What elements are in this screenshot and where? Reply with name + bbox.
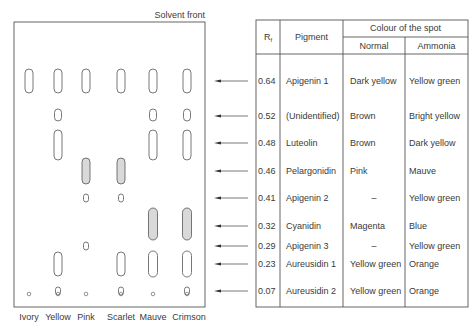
header-ammonia: Ammonia (417, 41, 455, 51)
cell-ammonia: Orange (409, 286, 439, 296)
arrow-row-3 (214, 141, 248, 144)
table-row: 0.23Aureusidin 1Yellow greenOrange (258, 259, 439, 269)
cell-pigment: (Unidentified) (286, 111, 340, 121)
spot-mauve-rf-032 (149, 208, 158, 240)
cell-rf: 0.48 (258, 138, 276, 148)
chromatography-plate (14, 22, 205, 307)
spot-yellow-rf-023 (54, 252, 62, 276)
table-row: 0.07Aureusidin 2Yellow greenOrange (258, 286, 439, 296)
lane-label-scarlet: Scarlet (107, 312, 136, 322)
table-rows: 0.64Apigenin 1Dark yellowYellow green0.5… (258, 76, 461, 296)
header-normal: Normal (359, 41, 388, 51)
spot-crimson-rf-048 (183, 130, 191, 160)
lane-label-pink: Pink (77, 312, 95, 322)
table-row: 0.29Apigenin 3–Yellow green (258, 241, 460, 251)
arrow-row-8 (214, 262, 248, 265)
cell-normal: Brown (350, 138, 376, 148)
cell-pigment: Aureusidin 2 (286, 286, 336, 296)
spot-ivory-rf-064 (25, 69, 33, 93)
spot-mauve-rf-023 (149, 251, 158, 277)
solvent-front-label: Solvent front (154, 10, 205, 20)
spot-scarlet-rf-064 (117, 69, 125, 93)
cell-pigment: Cyanidin (286, 221, 321, 231)
rf-arrows (214, 79, 248, 292)
arrow-row-7 (214, 244, 248, 247)
origin-points (27, 292, 189, 296)
spot-yellow-rf-048 (54, 130, 62, 160)
arrow-row-4 (214, 169, 248, 172)
origin-dot-pink (84, 292, 88, 296)
lane-label-mauve: Mauve (139, 312, 166, 322)
arrow-head-icon (214, 224, 221, 227)
cell-ammonia: Dark yellow (409, 138, 456, 148)
arrow-head-icon (214, 289, 221, 292)
cell-ammonia: Yellow green (409, 193, 460, 203)
spot-mauve-rf-048 (149, 130, 157, 160)
origin-dot-mauve (151, 292, 155, 296)
cell-rf: 0.64 (258, 76, 276, 86)
cell-normal: Magenta (350, 221, 385, 231)
cell-pigment: Pelargonidin (286, 166, 336, 176)
spot-crimson-rf-023 (183, 251, 192, 277)
arrow-head-icon (214, 169, 221, 172)
header-rf-sub: f (271, 37, 273, 43)
table-row: 0.32CyanidinMagentaBlue (258, 221, 427, 231)
chromatogram-figure: Solvent front Ivory Yellow Pink Scarlet … (0, 0, 476, 329)
spot-mauve-rf-052 (150, 109, 157, 121)
spot-mauve-rf-064 (149, 69, 157, 93)
cell-rf: 0.23 (258, 259, 276, 269)
cell-ammonia: Yellow green (409, 241, 460, 251)
cell-pigment: Aureusidin 1 (286, 259, 336, 269)
cell-rf: 0.07 (258, 286, 276, 296)
cell-rf: 0.32 (258, 221, 276, 231)
table-row: 0.52(Unidentified)BrownBright yellow (258, 111, 461, 121)
arrow-row-6 (214, 224, 248, 227)
spots-group (25, 69, 192, 295)
lane-label-yellow: Yellow (45, 312, 71, 322)
cell-rf: 0.52 (258, 111, 276, 121)
spot-scarlet-rf-046 (117, 158, 125, 184)
spot-yellow-rf-052 (55, 109, 62, 121)
origin-dot-ivory (27, 292, 31, 296)
cell-normal: Dark yellow (350, 76, 397, 86)
lane-labels: Ivory Yellow Pink Scarlet Mauve Crimson (19, 312, 206, 322)
arrow-head-icon (214, 141, 221, 144)
header-colour-group: Colour of the spot (370, 23, 442, 33)
cell-ammonia: Blue (409, 221, 427, 231)
spot-crimson-rf-032 (183, 208, 192, 240)
spot-crimson-rf-064 (183, 69, 191, 93)
cell-pigment: Luteolin (286, 138, 318, 148)
arrow-head-icon (214, 262, 221, 265)
cell-pigment: Apigenin 1 (286, 76, 329, 86)
cell-normal: – (371, 241, 376, 251)
cell-normal: Yellow green (350, 259, 401, 269)
cell-normal: Yellow green (350, 286, 401, 296)
spot-pink-rf-046 (82, 158, 90, 184)
arrow-row-1 (214, 79, 248, 82)
cell-pigment: Apigenin 2 (286, 193, 329, 203)
arrow-head-icon (214, 244, 221, 247)
spot-pink-rf-029 (84, 242, 89, 250)
lane-label-ivory: Ivory (19, 312, 39, 322)
table-row: 0.48LuteolinBrownDark yellow (258, 138, 456, 148)
arrow-row-9 (214, 289, 248, 292)
cell-pigment: Apigenin 3 (286, 241, 329, 251)
cell-normal: Brown (350, 111, 376, 121)
lane-label-crimson: Crimson (172, 312, 206, 322)
spot-pink-rf-064 (82, 69, 90, 93)
cell-rf: 0.41 (258, 193, 276, 203)
cell-rf: 0.29 (258, 241, 276, 251)
cell-ammonia: Orange (409, 259, 439, 269)
cell-ammonia: Mauve (409, 166, 436, 176)
arrow-head-icon (214, 196, 221, 199)
arrow-head-icon (214, 79, 221, 82)
header-rf: Rf (264, 32, 273, 43)
table-row: 0.46PelargonidinPinkMauve (258, 166, 436, 176)
spot-pink-rf-041 (84, 194, 89, 202)
header-pigment: Pigment (295, 32, 329, 42)
table-row: 0.41Apigenin 2–Yellow green (258, 193, 460, 203)
cell-normal: – (371, 193, 376, 203)
spot-scarlet-rf-023 (117, 252, 125, 276)
table-row: 0.64Apigenin 1Dark yellowYellow green (258, 76, 460, 86)
arrow-row-2 (214, 114, 248, 117)
